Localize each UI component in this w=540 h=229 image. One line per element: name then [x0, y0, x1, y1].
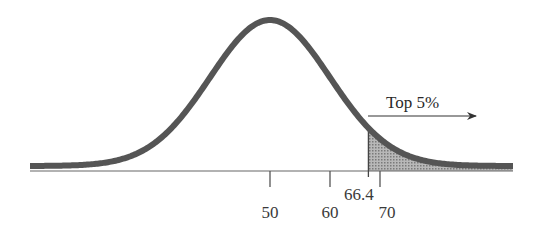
normal-distribution-diagram: Top 5% 50 60 66.4 70 [0, 0, 540, 229]
normal-curve [30, 20, 513, 166]
tick-label-60: 60 [322, 203, 339, 222]
tick-label-50: 50 [262, 203, 279, 222]
tick-label-66-4: 66.4 [344, 185, 374, 204]
tick-label-70: 70 [379, 203, 396, 222]
top-5-percent-label: Top 5% [386, 93, 439, 112]
